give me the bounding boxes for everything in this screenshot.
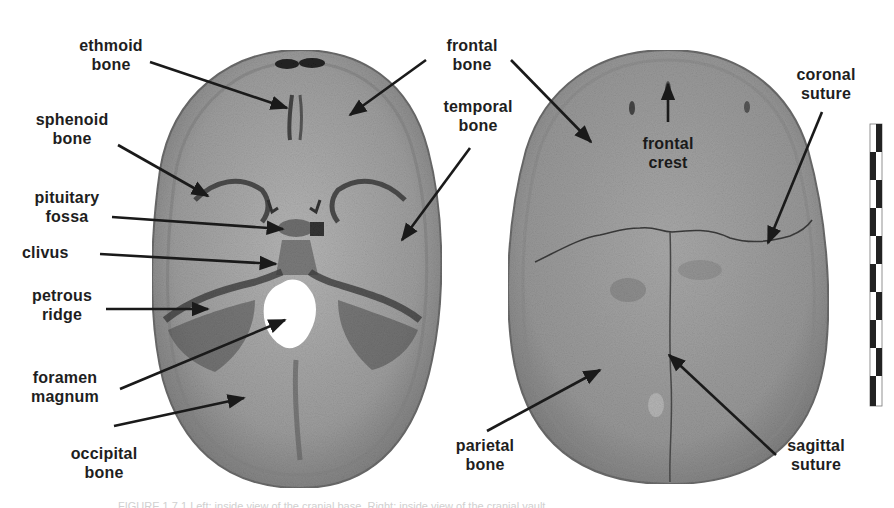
figure-caption: FIGURE 1.7.1 Left: inside view of the cr…: [118, 497, 818, 508]
label-coronal-suture: coronal suture: [784, 65, 868, 103]
label-temporal-bone: temporal bone: [430, 97, 526, 135]
label-petrous-ridge: petrous ridge: [20, 286, 104, 324]
label-line: bone: [430, 116, 526, 135]
label-line: bone: [66, 55, 156, 74]
label-line: foramen: [18, 368, 112, 387]
label-line: temporal: [430, 97, 526, 116]
label-line: sagittal: [776, 436, 856, 455]
cranial-base-view: [152, 50, 441, 488]
label-line: parietal: [442, 436, 528, 455]
label-line: pituitary: [20, 188, 114, 207]
label-sagittal-suture: sagittal suture: [776, 436, 856, 474]
label-clivus: clivus: [22, 243, 86, 262]
label-line: sphenoid: [20, 110, 124, 129]
scale-bar: [870, 124, 882, 406]
label-pituitary-fossa: pituitary fossa: [20, 188, 114, 226]
label-line: ridge: [20, 305, 104, 324]
label-line: bone: [20, 129, 124, 148]
skull-anatomy-figure: ethmoid bone sphenoid bone pituitary fos…: [0, 0, 894, 508]
label-line: suture: [776, 455, 856, 474]
label-line: frontal: [628, 134, 708, 153]
label-line: clivus: [22, 243, 86, 262]
label-occipital-bone: occipital bone: [58, 444, 150, 482]
label-line: crest: [628, 153, 708, 172]
label-line: coronal: [784, 65, 868, 84]
label-line: fossa: [20, 207, 114, 226]
label-ethmoid-bone: ethmoid bone: [66, 36, 156, 74]
label-parietal-bone: parietal bone: [442, 436, 528, 474]
label-line: bone: [442, 455, 528, 474]
label-foramen-magnum: foramen magnum: [18, 368, 112, 406]
label-frontal-crest: frontal crest: [628, 134, 708, 172]
label-frontal-bone: frontal bone: [432, 36, 512, 74]
label-line: petrous: [20, 286, 104, 305]
label-line: frontal: [432, 36, 512, 55]
label-line: magnum: [18, 387, 112, 406]
label-line: bone: [432, 55, 512, 74]
figure-artwork: [0, 0, 894, 508]
label-line: suture: [784, 84, 868, 103]
label-sphenoid-bone: sphenoid bone: [20, 110, 124, 148]
label-line: bone: [58, 463, 150, 482]
label-line: ethmoid: [66, 36, 156, 55]
label-line: occipital: [58, 444, 150, 463]
